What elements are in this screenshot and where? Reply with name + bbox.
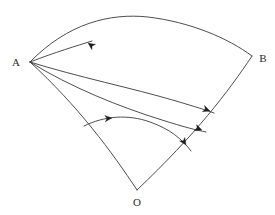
vertex-label-b: B [259, 53, 266, 64]
outer-arc-ab [30, 16, 252, 62]
upper-ray-from-a [30, 41, 92, 62]
geodesic-curve-upper [30, 62, 214, 113]
geodesic-curve-lower [30, 62, 206, 132]
vertex-label-a: A [12, 57, 20, 68]
radius-line-oa [30, 62, 137, 190]
radius-line-ob [137, 56, 252, 190]
vertex-label-o: O [133, 197, 141, 208]
geometry-figure: A B O [0, 0, 275, 215]
inner-arc [84, 117, 191, 151]
figure-canvas [0, 0, 275, 215]
